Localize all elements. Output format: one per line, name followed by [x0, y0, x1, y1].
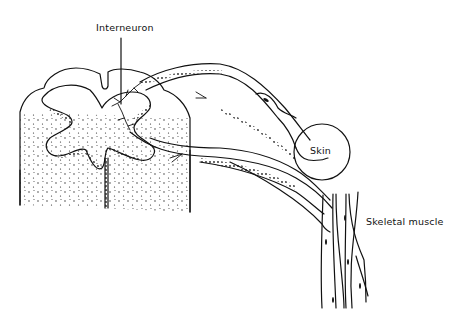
diagram-drawing [0, 0, 456, 324]
interneuron-label: Interneuron [96, 22, 154, 33]
skeletal-muscle-label: Skeletal muscle [366, 216, 444, 227]
spinal-cord [20, 68, 190, 212]
skin-label: Skin [310, 145, 331, 156]
reflex-arc-diagram: Interneuron Skin Skeletal muscle [0, 0, 456, 324]
skeletal-muscle [321, 192, 368, 308]
